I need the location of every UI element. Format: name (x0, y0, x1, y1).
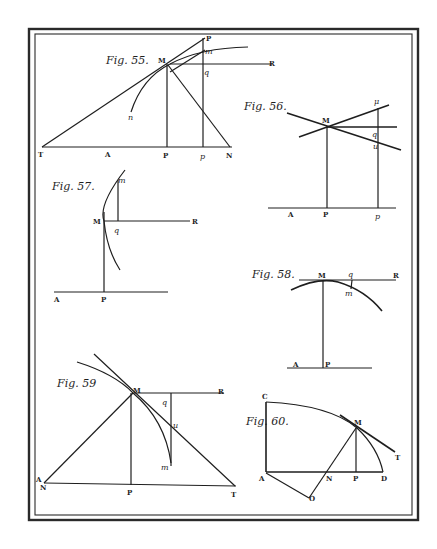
label-P: P (325, 360, 331, 369)
figure-56: Fig. 56. M μ q u A P p (243, 97, 401, 221)
label-P: P (323, 210, 329, 219)
arc-CD (266, 402, 383, 472)
label-C: C (262, 392, 268, 401)
figure-57-title: Fig. 57. (51, 180, 95, 193)
label-m: m (118, 176, 126, 185)
label-T: T (395, 453, 401, 462)
label-q: q (348, 270, 353, 279)
label-R: R (269, 59, 275, 68)
label-A: A (53, 295, 60, 304)
label-A: A (258, 474, 265, 483)
label-p: p (375, 212, 380, 221)
label-R: R (218, 387, 224, 396)
line-MO (309, 428, 356, 498)
plate-frame (29, 29, 418, 520)
outer-border (29, 29, 418, 520)
figure-60: Fig. 60. C M T A N P D O (245, 392, 401, 503)
engraved-plate: Fig. 55. M P m R q n T A P p N Fig. 56. (0, 0, 437, 549)
figure-60-title: Fig. 60. (245, 415, 289, 428)
label-u: u (373, 142, 378, 151)
figure-59: Fig. 59 M R q u m A N P T (35, 354, 237, 499)
label-M: M (318, 271, 326, 280)
label-N: N (226, 151, 233, 160)
figure-55-title: Fig. 55. (105, 54, 149, 67)
label-M: M (354, 418, 362, 427)
label-T: T (231, 490, 237, 499)
label-n: n (128, 113, 133, 122)
label-M: M (93, 217, 101, 226)
label-p: p (200, 152, 205, 161)
curve (103, 170, 125, 270)
label-u: u (173, 421, 178, 430)
label-mu: μ (374, 97, 379, 106)
label-R: R (192, 217, 198, 226)
label-M: M (158, 56, 166, 65)
label-q: q (162, 398, 167, 407)
label-A: A (292, 360, 299, 369)
curve (291, 281, 382, 311)
label-A: A (287, 210, 294, 219)
label-R: R (393, 271, 399, 280)
figure-59-title: Fig. 59 (56, 377, 96, 390)
label-q: q (372, 130, 377, 139)
label-N: N (326, 474, 333, 483)
line-NM (44, 393, 133, 483)
label-M: M (133, 386, 141, 395)
tangent-MT (340, 415, 395, 452)
label-D: D (381, 474, 387, 483)
label-m: m (161, 463, 169, 472)
figure-55: Fig. 55. M P m R q n T A P p N (38, 34, 275, 161)
figure-58-title: Fig. 58. (251, 268, 295, 281)
figure-57: Fig. 57. M m R q A P (51, 170, 198, 304)
label-m: m (205, 47, 213, 56)
label-T: T (38, 150, 44, 159)
label-P: P (353, 474, 359, 483)
label-P-top: P (206, 34, 212, 43)
label-q: q (114, 226, 119, 235)
label-P: P (163, 151, 169, 160)
label-O: O (309, 494, 315, 503)
figure-56-title: Fig. 56. (243, 100, 287, 113)
label-M: M (322, 116, 330, 125)
axis-line (44, 483, 236, 486)
label-P: P (101, 295, 107, 304)
figure-58: Fig. 58. M q R m A P (251, 268, 399, 369)
label-N: N (40, 483, 47, 492)
normal-MN (168, 65, 230, 147)
label-m: m (345, 289, 353, 298)
label-q: q (204, 68, 209, 77)
label-P: P (127, 488, 133, 497)
label-A: A (104, 150, 111, 159)
line-M-u (287, 113, 401, 150)
line-AO (266, 473, 309, 498)
